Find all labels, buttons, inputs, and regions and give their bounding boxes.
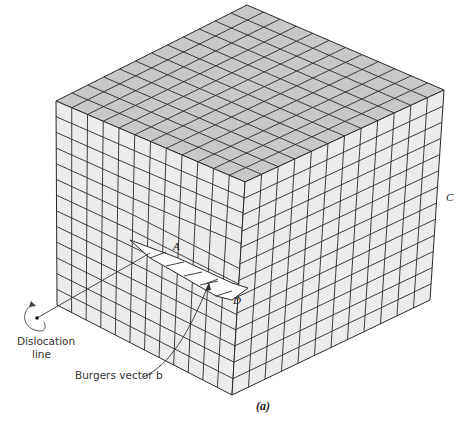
dislocation-line-label-2: line [32, 348, 51, 360]
burgers-vector-label: Burgers vector b [75, 369, 163, 381]
label-d: D [232, 294, 241, 306]
figure-caption: (a) [256, 399, 270, 413]
label-a: A [172, 240, 180, 252]
dislocation-cube-figure: A C D Dislocation line Burgers vector b … [0, 0, 464, 425]
rotation-arrow-icon [25, 305, 46, 331]
label-c: C [446, 191, 454, 203]
dislocation-line-label: Dislocation [17, 335, 75, 347]
dislocation-point-icon [35, 316, 39, 320]
rotation-arrowhead-icon [29, 301, 36, 307]
